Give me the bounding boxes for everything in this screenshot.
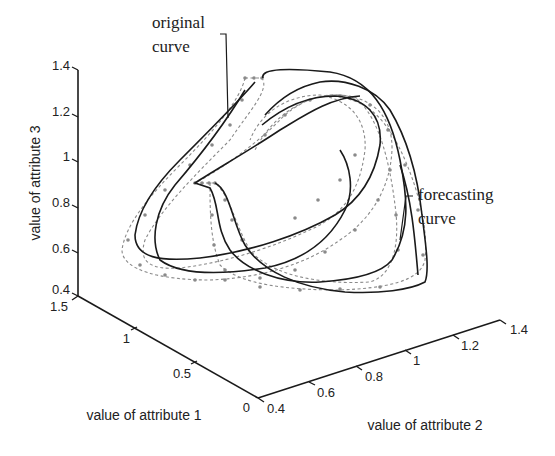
- forecasting-curve-series: [135, 70, 427, 293]
- z-tick-0.8: 0.8: [52, 195, 70, 210]
- z-axis: 1.4 1.2 1 0.8 0.6 0.4 value of attribute…: [27, 58, 78, 297]
- chart-3d: 1.4 1.2 1 0.8 0.6 0.4 value of attribute…: [0, 0, 555, 456]
- x-tick-1: 1: [123, 331, 130, 346]
- z-axis-title: value of attribute 3: [27, 125, 43, 240]
- y-tick-1.2: 1.2: [461, 338, 479, 353]
- y-tick-0.8: 0.8: [365, 369, 383, 384]
- y-axis: 0.4 0.6 0.8 1 1.2 1.4 value of attribute…: [258, 320, 528, 433]
- annot-forecast-line2: curve: [418, 209, 456, 228]
- z-tick-0.4: 0.4: [52, 282, 70, 297]
- y-axis-title: value of attribute 2: [367, 417, 482, 433]
- y-tick-1.4: 1.4: [510, 322, 528, 337]
- x-tick-0.5: 0.5: [173, 366, 191, 381]
- x-axis-title: value of attribute 1: [86, 407, 201, 423]
- y-tick-1: 1: [413, 353, 420, 368]
- z-tick-1.4: 1.4: [52, 58, 70, 73]
- annotation-original: original curve: [152, 13, 228, 118]
- annot-original-line2: curve: [152, 37, 190, 56]
- x-axis: 1.5 1 0.5 0 value of attribute 1: [50, 296, 258, 423]
- z-tick-1.2: 1.2: [52, 104, 70, 119]
- x-tick-0: 0: [243, 400, 250, 415]
- y-tick-0.4: 0.4: [267, 401, 285, 416]
- annot-forecast-line1: forecasting: [418, 185, 494, 204]
- annot-original-line1: original: [152, 13, 205, 32]
- y-tick-0.6: 0.6: [317, 385, 335, 400]
- z-tick-0.6: 0.6: [52, 241, 70, 256]
- z-tick-1: 1: [63, 149, 70, 164]
- x-tick-1.5: 1.5: [50, 299, 68, 314]
